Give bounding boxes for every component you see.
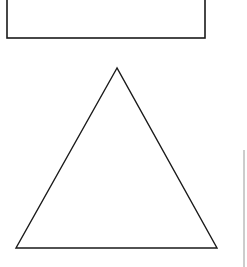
diagram-canvas (0, 0, 247, 267)
triangle-shape (16, 68, 217, 248)
diagram-svg (0, 0, 247, 267)
rectangle-shape (7, 0, 205, 38)
